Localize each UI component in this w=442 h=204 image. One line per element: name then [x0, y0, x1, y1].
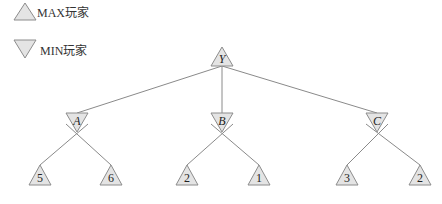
- leaf-2-value: 6: [108, 171, 114, 185]
- edge-a-leaf1: [40, 124, 88, 165]
- leaf-6: 2: [409, 165, 431, 185]
- game-tree-diagram: MAX玩家 MIN玩家 Y A B C 5 6: [0, 0, 442, 204]
- node-b-label: B: [218, 114, 226, 128]
- node-c: C: [366, 113, 388, 132]
- legend-max-label: MAX玩家: [37, 5, 89, 20]
- legend: MAX玩家 MIN玩家: [14, 3, 89, 58]
- node-a: A: [66, 113, 88, 132]
- leaf-3-value: 2: [184, 171, 190, 185]
- max-player-triangle-icon: [14, 3, 36, 20]
- leaf-4: 1: [248, 165, 270, 185]
- node-b: B: [211, 113, 233, 132]
- edge-y-a: [77, 66, 222, 113]
- node-c-label: C: [373, 114, 382, 128]
- leaf-4-value: 1: [256, 171, 262, 185]
- node-a-label: A: [72, 114, 81, 128]
- leaf-5-value: 3: [344, 171, 350, 185]
- edge-y-c: [222, 66, 377, 113]
- edge-c-leaf5: [347, 124, 388, 165]
- edge-b-leaf4: [211, 124, 259, 165]
- node-root: Y: [211, 47, 233, 66]
- edge-c-leaf6: [366, 124, 420, 165]
- leaf-3: 2: [176, 165, 198, 185]
- leaf-1: 5: [29, 165, 51, 185]
- leaf-6-value: 2: [417, 171, 423, 185]
- leaf-1-value: 5: [37, 171, 43, 185]
- edge-b-leaf3: [187, 124, 233, 165]
- edge-a-leaf2: [66, 124, 111, 165]
- min-player-triangle-icon: [14, 40, 36, 58]
- legend-min-label: MIN玩家: [40, 43, 87, 58]
- leaf-2: 6: [100, 165, 122, 185]
- leaf-5: 3: [336, 165, 358, 185]
